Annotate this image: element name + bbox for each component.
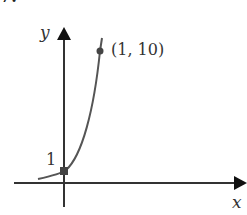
exponential-graph-figure: 7. y x (1, 10) 1	[0, 0, 247, 215]
problem-number-label: 7.	[0, 0, 17, 5]
y-axis-label: y	[40, 24, 50, 41]
graph-canvas	[0, 0, 247, 215]
y-axis-arrow-icon	[57, 27, 71, 40]
x-axis-arrow-icon	[234, 176, 247, 190]
point-label: (1, 10)	[111, 42, 164, 58]
intercept-label: 1	[46, 152, 56, 168]
x-axis-label: x	[232, 194, 242, 211]
point-1-10	[97, 48, 104, 55]
y-intercept-point	[60, 167, 68, 175]
